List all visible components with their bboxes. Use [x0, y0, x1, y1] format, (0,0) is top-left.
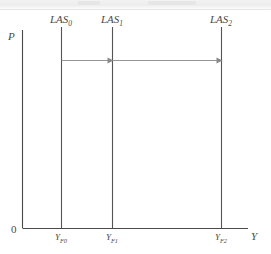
- x-tick-label-yf1: YF1: [106, 233, 118, 244]
- x-tick-yf2-subscript: F2: [220, 237, 227, 244]
- las0-label-text: LAS: [50, 13, 68, 25]
- origin-label: 0: [11, 224, 17, 235]
- las1-label-subscript: 1: [119, 19, 123, 28]
- las2-label-subscript: 2: [228, 19, 232, 28]
- y-axis-label: P: [8, 31, 15, 42]
- las1-label-text: LAS: [101, 13, 119, 25]
- plot-area: [0, 0, 271, 254]
- figure-canvas: P Y 0 LAS0 LAS1 LAS2 YF0 YF1 YF2: [0, 0, 271, 254]
- x-tick-yf0-subscript: F0: [60, 237, 67, 244]
- x-tick-yf1-subscript: F1: [111, 237, 118, 244]
- las1-label: LAS1: [101, 14, 123, 28]
- x-axis-label: Y: [251, 231, 257, 242]
- las2-label-text: LAS: [210, 13, 228, 25]
- las2-label: LAS2: [210, 14, 232, 28]
- las0-label-subscript: 0: [68, 19, 72, 28]
- x-tick-label-yf2: YF2: [215, 233, 227, 244]
- las0-label: LAS0: [50, 14, 72, 28]
- x-tick-label-yf0: YF0: [55, 233, 67, 244]
